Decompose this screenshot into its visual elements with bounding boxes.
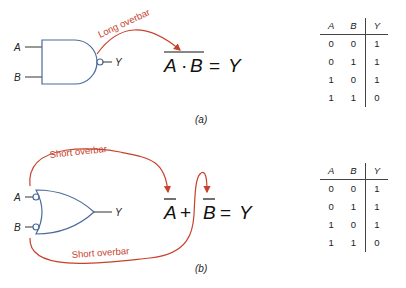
truth-table-b: A B Y 0 0 1 0 1 1 1 0 1 1 1 0 [320,163,388,252]
cell: 1 [365,216,388,234]
eq-a-var-a: A [163,55,177,76]
output-y-label-b: Y [115,207,123,218]
header-a: A [320,163,342,180]
cell: 1 [320,216,342,234]
input-a-label-b: A [13,192,21,203]
cell: 1 [342,234,365,252]
cell: 0 [365,234,388,252]
header-y: Y [365,163,388,180]
cell: 1 [320,89,342,107]
input-a-label: A [13,42,21,53]
caption-b: (b) [195,263,207,274]
cell: 1 [365,198,388,216]
nand-gate [25,40,112,84]
eq-a-var-y: Y [228,55,242,76]
short-overbar-annotation-bottom: Short overbar [71,245,129,260]
eq-b-var-y: Y [239,202,253,223]
long-overbar-annotation: Long overbar [96,6,151,40]
header-a: A [320,18,342,35]
eq-b-var-a: A [163,202,177,223]
cell: 0 [320,198,342,216]
cell: 0 [342,35,365,54]
cell: 0 [342,216,365,234]
eq-a-equals: = [209,55,220,76]
cell: 1 [342,89,365,107]
cell: 1 [365,35,388,54]
input-b-label: B [14,72,21,83]
cell: 1 [320,71,342,89]
eq-a-var-b: B [190,55,203,76]
equation-b: A + B = Y [163,199,253,223]
eq-b-plus: + [180,202,191,223]
header-y: Y [365,18,388,35]
cell: 0 [342,180,365,199]
input-b-label-b: B [14,222,21,233]
cell: 0 [365,89,388,107]
header-b: B [342,163,365,180]
table-row: 0 1 1 [320,53,388,71]
cell: 1 [342,198,365,216]
table-row: 1 0 1 [320,216,388,234]
cell: 0 [342,71,365,89]
eq-b-equals: = [220,202,231,223]
short-overbar-annotation-top: Short overbar [49,143,107,160]
table-row: 1 0 1 [320,71,388,89]
table-row: 0 0 1 [320,35,388,54]
truth-table-a: A B Y 0 0 1 0 1 1 1 0 1 1 1 0 [320,18,388,107]
cell: 0 [320,35,342,54]
cell: 1 [365,71,388,89]
caption-a: (a) [195,114,207,125]
table-row: 0 1 1 [320,198,388,216]
or-gate-inverted-inputs [25,190,112,234]
eq-a-dot: · [181,55,187,76]
output-y-label: Y [115,57,123,68]
table-row: 1 1 0 [320,89,388,107]
table-row: 0 0 1 [320,180,388,199]
cell: 1 [342,53,365,71]
cell: 1 [320,234,342,252]
header-b: B [342,18,365,35]
cell: 1 [365,180,388,199]
cell: 1 [365,53,388,71]
table-row: 1 1 0 [320,234,388,252]
cell: 0 [320,180,342,199]
cell: 0 [320,53,342,71]
equation-a: A · B = Y [163,52,242,76]
eq-b-var-b: B [203,202,216,223]
